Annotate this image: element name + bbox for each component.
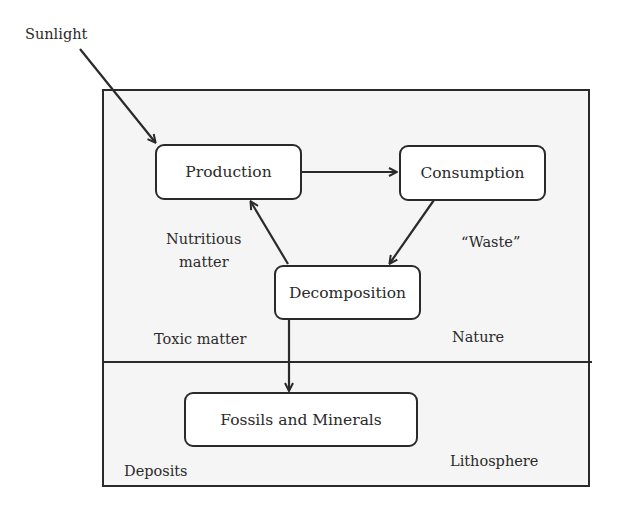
- toxic-matter-label: Toxic matter: [154, 330, 246, 348]
- consumption-to-decomposition-arrow: [390, 200, 434, 263]
- nutritious-label: Nutritious: [166, 230, 241, 248]
- sunlight-label: Sunlight: [25, 25, 87, 43]
- consumption-node: Consumption: [399, 145, 546, 201]
- deposits-label: Deposits: [124, 462, 188, 480]
- production-label: Production: [185, 163, 271, 181]
- fossils-minerals-node: Fossils and Minerals: [184, 392, 418, 447]
- nature-label: Nature: [452, 328, 504, 346]
- decomposition-to-production-arrow: [251, 202, 288, 264]
- sunlight-arrow: [80, 49, 155, 142]
- decomposition-label: Decomposition: [289, 284, 406, 302]
- waste-label: “Waste”: [461, 233, 520, 251]
- decomposition-node: Decomposition: [274, 265, 421, 320]
- matter-label: matter: [179, 253, 229, 271]
- lithosphere-label: Lithosphere: [450, 452, 538, 470]
- consumption-label: Consumption: [420, 164, 524, 182]
- fossils-minerals-label: Fossils and Minerals: [220, 411, 382, 429]
- production-node: Production: [155, 144, 302, 200]
